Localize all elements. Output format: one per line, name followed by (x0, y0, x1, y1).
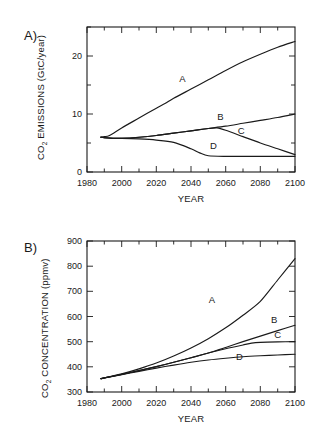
panel-b-xticks (87, 241, 295, 392)
curve-b-b (101, 325, 295, 378)
panel-b-xtick-2000: 2000 (112, 398, 132, 408)
panel-a-ylabel: CO2 EMISSIONS (GtC/year) (35, 35, 48, 160)
curve-label-b-a: A (209, 294, 216, 305)
panel-a-xtick-2020: 2020 (146, 178, 166, 188)
co2-scenarios-figure: A) CO2 EMISSIONS (GtC/year) (0, 0, 322, 436)
panel-a-emissions: A) CO2 EMISSIONS (GtC/year) (0, 0, 322, 216)
panel-b-xtick-1980: 1980 (77, 398, 97, 408)
panel-b-ytick-500: 500 (67, 337, 82, 347)
panel-a-curves (101, 42, 295, 157)
curve-label-b-b: B (271, 314, 277, 325)
curve-b-a (101, 259, 295, 379)
panel-b-letter: B) (24, 240, 37, 255)
panel-a-xlabel: YEAR (178, 193, 205, 204)
panel-a-xtick-2080: 2080 (250, 178, 270, 188)
panel-b-yticks (87, 241, 295, 392)
panel-b-xtick-2040: 2040 (181, 398, 201, 408)
curve-a-a (101, 42, 295, 138)
panel-b-curves (101, 259, 295, 379)
curve-a-c (101, 128, 295, 155)
panel-a-ytick-20: 20 (72, 51, 82, 61)
panel-b-ylabel: CO2 CONCENTRATION (ppmv) (39, 258, 52, 398)
panel-a-ytick-10: 10 (72, 109, 82, 119)
panel-b-xtick-2080: 2080 (250, 398, 270, 408)
panel-b-frame (87, 241, 295, 392)
panel-a-ytick-0: 0 (77, 167, 82, 177)
panel-b-concentration: B) CO2 CONCENTRATION (ppmv) (0, 216, 322, 436)
panel-b-ytick-300: 300 (67, 387, 82, 397)
panel-a-yticks (87, 27, 295, 172)
panel-b-ytick-400: 400 (67, 362, 82, 372)
curve-b-d (101, 354, 295, 378)
curve-label-b-d: D (236, 351, 243, 362)
panel-b-xtick-2020: 2020 (146, 398, 166, 408)
panel-b-curve-labels: ABCD (209, 294, 282, 362)
curve-label-b-c: C (274, 329, 281, 340)
panel-a-xtick-2060: 2060 (216, 178, 236, 188)
curve-label-a-c: C (238, 125, 245, 136)
panel-b-ytick-600: 600 (67, 312, 82, 322)
curve-label-a-b: B (217, 111, 223, 122)
panel-b-xtick-2060: 2060 (216, 398, 236, 408)
svg-text:CO2 EMISSIONS (GtC/year): CO2 EMISSIONS (GtC/year) (35, 35, 48, 160)
panel-b-ytick-800: 800 (67, 261, 82, 271)
svg-text:CO2 CONCENTRATION (ppmv): CO2 CONCENTRATION (ppmv) (39, 258, 52, 398)
curve-a-b (101, 114, 295, 138)
panel-a-xtick-2000: 2000 (112, 178, 132, 188)
panel-a-curve-labels: ABCD (179, 73, 245, 151)
panel-a-frame (87, 27, 295, 172)
curve-label-a-d: D (210, 140, 217, 151)
panel-a-svg: A) CO2 EMISSIONS (GtC/year) (0, 0, 322, 216)
curve-a-d (101, 137, 295, 156)
panel-a-xtick-1980: 1980 (77, 178, 97, 188)
panel-b-xlabel: YEAR (178, 413, 205, 424)
panel-b-svg: B) CO2 CONCENTRATION (ppmv) (0, 216, 322, 436)
panel-b-ytick-900: 900 (67, 236, 82, 246)
panel-b-ytick-700: 700 (67, 286, 82, 296)
panel-b-xtick-2100: 2100 (285, 398, 305, 408)
panel-a-xticks (87, 27, 295, 172)
panel-a-xtick-2100: 2100 (285, 178, 305, 188)
curve-label-a-a: A (179, 73, 186, 84)
panel-a-xtick-2040: 2040 (181, 178, 201, 188)
